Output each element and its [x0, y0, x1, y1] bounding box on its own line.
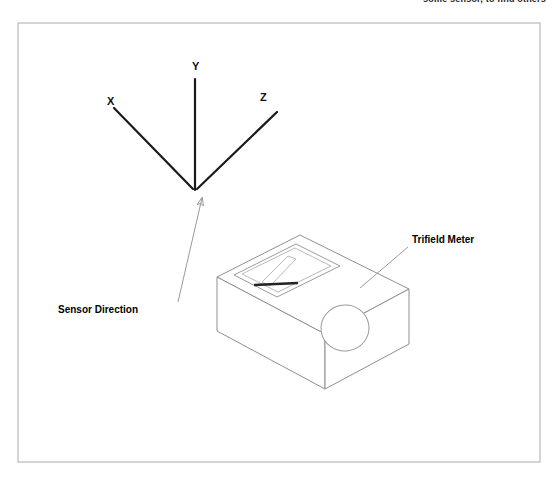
sensor-direction-label: Sensor Direction: [58, 304, 138, 315]
axis-label-z: Z: [260, 91, 267, 103]
trifield-meter-axis-diagram: X Y Z Sensor Direction Trifield Meter: [0, 0, 558, 479]
axis-label-x: X: [107, 95, 115, 107]
axis-triad: X Y Z: [107, 60, 277, 190]
axis-line-x: [114, 108, 193, 189]
trifield-meter-label: Trifield Meter: [412, 234, 474, 245]
sensor-direction-leader: [178, 198, 202, 302]
trifield-meter-body: [217, 235, 409, 389]
axis-label-y: Y: [192, 60, 200, 72]
callout-sensor-direction: Sensor Direction: [58, 198, 202, 315]
axis-line-z: [197, 112, 277, 189]
